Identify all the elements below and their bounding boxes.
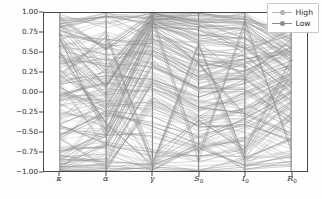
plot-area [43,12,308,172]
data-point [58,45,61,48]
legend-item-low[interactable]: Low [272,18,313,29]
data-point [197,165,200,168]
data-point [151,128,154,131]
data-point [151,62,154,65]
y-tick-mark [39,92,43,93]
data-point [104,19,108,23]
data-point [151,151,154,154]
data-point [290,49,293,52]
data-point [243,100,246,103]
y-tick-mark [39,12,43,13]
data-point [197,26,199,28]
data-point [289,113,292,116]
data-point [151,166,153,168]
data-point [104,68,107,71]
data-point [59,168,61,170]
y-tick-label: 0.75 [4,28,38,35]
data-point [59,55,62,58]
parallel-coordinates-figure: 1.000.750.500.250.00−0.25−0.50−0.75−1.00… [0,0,322,199]
data-point [243,78,246,81]
data-point [151,112,154,115]
y-tick-label: 1.00 [4,8,38,15]
data-point [58,149,61,152]
data-point [290,39,292,41]
data-point [243,15,246,18]
legend-label: Low [296,20,311,28]
data-point [290,59,293,62]
x-tick-label-1: α [103,174,108,183]
data-point [105,146,107,148]
y-tick-mark [39,32,43,33]
data-point [197,24,200,27]
x-tick-label-3: S0 [194,174,203,183]
data-point [244,59,246,61]
x-tick-label-2: γ [150,174,155,183]
data-point [290,34,292,36]
data-point [105,53,108,56]
data-point [105,41,108,44]
data-point [244,87,246,89]
legend-line-marker-icon [272,20,292,28]
data-point [243,65,247,69]
data-point [58,33,61,36]
legend-label: High [296,9,313,17]
y-tick-label: −1.00 [4,168,38,175]
data-point [105,152,108,155]
data-point [243,25,246,28]
y-tick-mark [39,132,43,133]
y-tick-label: 0.50 [4,48,38,55]
data-point [197,47,199,49]
legend: HighLow [267,3,319,33]
y-tick-label: −0.25 [4,108,38,115]
data-point [243,81,246,84]
data-point [197,62,200,65]
data-point [290,81,293,84]
data-point [59,63,61,65]
y-tick-mark [39,112,43,113]
x-tick-label-0: κ [56,174,61,183]
data-point [197,86,200,89]
legend-item-high[interactable]: High [272,7,313,18]
data-point [104,92,108,96]
data-point [290,48,292,50]
data-point [243,151,246,154]
data-point [243,47,246,50]
data-point [151,26,154,29]
x-tick-label-5: R0 [287,174,297,183]
data-point [151,37,154,40]
data-point [290,156,292,158]
y-tick-label: 0.25 [4,68,38,75]
y-tick-label: 0.00 [4,88,38,95]
data-point [58,113,61,116]
data-point [151,101,154,104]
y-axis-tick-labels: 1.000.750.500.250.00−0.25−0.50−0.75−1.00 [2,12,38,172]
data-point [197,157,200,160]
y-tick-mark [39,172,43,173]
parallel-coordinates-lines [44,13,307,171]
data-point [244,154,246,156]
data-point [290,74,292,76]
legend-line-marker-icon [272,9,292,17]
data-point [105,65,108,68]
y-tick-mark [39,52,43,53]
data-point [197,134,200,137]
y-tick-label: −0.50 [4,128,38,135]
y-tick-label: −0.75 [4,148,38,155]
data-point [197,147,200,150]
data-point [58,42,61,45]
data-point [105,47,108,50]
y-tick-mark [39,72,43,73]
data-point [105,166,108,169]
data-point [244,37,247,40]
data-point [197,53,200,56]
y-tick-mark [39,152,43,153]
data-point [105,157,107,159]
data-point [197,73,199,75]
data-point [151,16,154,19]
data-point [244,137,246,139]
data-point [151,84,154,87]
data-point [198,33,200,35]
data-point [105,63,107,65]
data-point [105,45,107,47]
data-point [105,126,108,129]
